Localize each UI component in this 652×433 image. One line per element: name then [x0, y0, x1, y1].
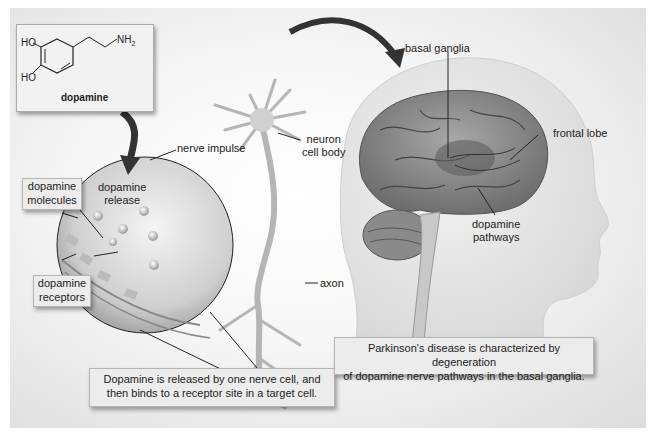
frontal-lobe-label: frontal lobe	[553, 127, 607, 140]
arrow-to-brain	[290, 20, 395, 55]
hydroxyl-label-bottom: HO	[21, 71, 36, 84]
arrow-head	[385, 48, 405, 68]
dopamine-structure-box: HO HO NH2 dopamine	[16, 24, 154, 112]
axon-label: axon	[320, 277, 344, 290]
hydroxyl-label-top: HO	[21, 36, 36, 49]
amine-label: NH2	[117, 33, 135, 50]
neuron-cell-body-label: neuron cell body	[302, 133, 345, 159]
dopamine-release-label: dopamine release	[98, 181, 146, 207]
nerve-impulse-label: nerve impulse	[177, 142, 245, 155]
parkinsons-caption-box: Parkinson's disease is characterized by …	[334, 337, 594, 375]
release-caption-box: Dopamine is released by one nerve cell, …	[89, 368, 335, 407]
dopamine-receptors-box: dopamine receptors	[33, 275, 91, 307]
arrow-to-inset	[122, 112, 135, 160]
dopamine-molecules-box: dopamine molecules	[22, 178, 82, 210]
basal-ganglia-label: basal ganglia	[405, 42, 470, 55]
neuron-cell-body	[250, 108, 274, 132]
dopamine-pathways-label: dopamine pathways	[472, 218, 520, 244]
dopamine-title: dopamine	[61, 91, 108, 104]
